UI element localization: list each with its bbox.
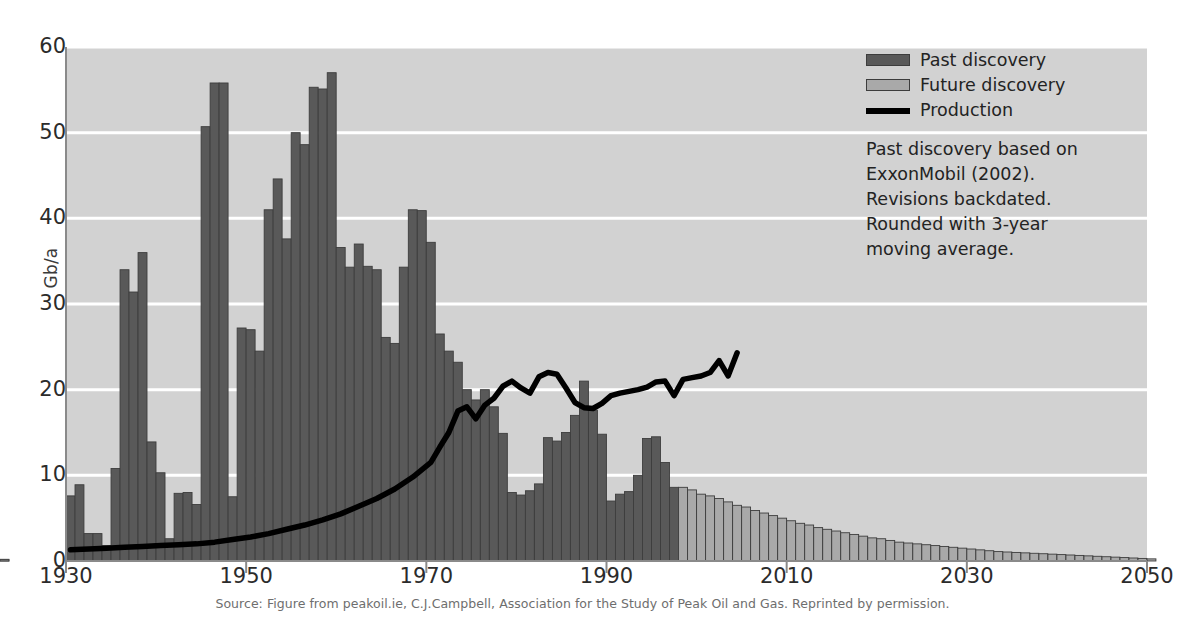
bar — [228, 497, 237, 561]
bar — [643, 439, 652, 562]
bar — [1048, 554, 1057, 561]
bar — [823, 529, 832, 561]
note-line: ExxonMobil (2002). — [866, 162, 1116, 187]
bar — [706, 496, 715, 561]
bar — [372, 270, 381, 561]
bar — [670, 487, 679, 561]
bar — [534, 484, 543, 561]
bar — [354, 244, 363, 561]
bar — [940, 546, 949, 561]
bar — [769, 516, 778, 561]
bar — [255, 351, 264, 561]
legend-swatch-production — [866, 108, 910, 114]
bar — [661, 462, 670, 561]
bar — [976, 550, 985, 561]
x-tick-label: 1970 — [381, 566, 471, 587]
y-axis-label: Gb/a — [41, 223, 61, 313]
bar — [444, 351, 453, 561]
note-line: Past discovery based on — [866, 137, 1116, 162]
bar — [345, 267, 354, 561]
bar — [552, 441, 561, 561]
bar — [625, 492, 634, 561]
bar — [922, 545, 931, 561]
bar — [679, 487, 688, 561]
legend-label-future-discovery: Future discovery — [920, 75, 1065, 95]
bar — [219, 83, 228, 561]
x-tick-label: 1930 — [21, 566, 111, 587]
bar — [570, 415, 579, 561]
bar — [832, 531, 841, 561]
bar — [949, 547, 958, 561]
bar — [453, 362, 462, 561]
bar — [165, 539, 174, 561]
bar — [507, 492, 516, 561]
bar — [390, 343, 399, 561]
bar — [588, 410, 597, 561]
note-line: Rounded with 3-year — [866, 212, 1116, 237]
legend-swatch-past-discovery — [866, 54, 910, 66]
y-tick-label: 20 — [20, 379, 66, 400]
bar — [715, 498, 724, 561]
bar — [174, 493, 183, 561]
x-tick-label: 2030 — [922, 566, 1012, 587]
bar — [724, 502, 733, 561]
bar — [489, 407, 498, 561]
bar — [841, 533, 850, 561]
legend-item-future-discovery: Future discovery — [866, 73, 1126, 97]
bar — [282, 239, 291, 561]
bar — [751, 510, 760, 561]
bar — [129, 292, 138, 561]
legend-label-production: Production — [920, 100, 1013, 120]
bar — [994, 552, 1003, 561]
figure-caption: Source: Figure from peakoil.ie, C.J.Camp… — [0, 596, 1165, 611]
bar — [886, 540, 895, 561]
bar — [264, 210, 273, 561]
bar — [1039, 554, 1048, 561]
bar — [1012, 552, 1021, 561]
bar — [246, 330, 255, 561]
bar — [931, 546, 940, 561]
y-tick-label: 10 — [20, 464, 66, 485]
bar — [408, 210, 417, 561]
bar — [543, 438, 552, 561]
bar — [958, 548, 967, 561]
legend-swatch-future-discovery — [866, 79, 910, 91]
chart-annotation-note: Past discovery based onExxonMobil (2002)… — [866, 137, 1116, 262]
bar — [895, 542, 904, 561]
bar — [516, 495, 525, 561]
bar — [138, 253, 147, 561]
x-tick-label: 1990 — [562, 566, 652, 587]
y-tick-label: 60 — [20, 36, 66, 57]
x-tick-label: 2010 — [742, 566, 832, 587]
bar — [652, 437, 661, 561]
bar — [1147, 559, 1156, 561]
bar — [778, 518, 787, 561]
note-line: Revisions backdated. — [866, 187, 1116, 212]
bar — [805, 525, 814, 561]
x-tick-label: 1950 — [201, 566, 291, 587]
bar — [850, 534, 859, 561]
bar — [859, 536, 868, 561]
legend-item-past-discovery: Past discovery — [866, 48, 1126, 72]
bar — [471, 400, 480, 561]
bar — [327, 73, 336, 561]
bar — [1030, 553, 1039, 561]
bar — [210, 83, 219, 561]
bar — [967, 549, 976, 561]
bar — [913, 544, 922, 561]
bar — [192, 504, 201, 561]
bar — [868, 538, 877, 561]
bar — [607, 501, 616, 561]
bar — [417, 211, 426, 561]
bar — [597, 434, 606, 561]
bar — [363, 266, 372, 561]
bar — [120, 270, 129, 561]
bar — [616, 494, 625, 561]
bar — [733, 505, 742, 561]
note-line: moving average. — [866, 237, 1116, 262]
bar — [561, 433, 570, 562]
bar — [904, 543, 913, 561]
bar — [760, 513, 769, 561]
bar — [742, 507, 751, 561]
